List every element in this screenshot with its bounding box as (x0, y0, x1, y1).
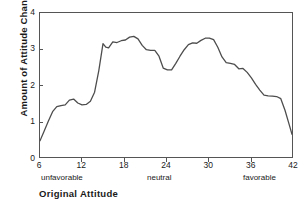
x-anchor-label-neutral: neutral (147, 174, 171, 182)
y-tick-label-1: 1 (19, 117, 35, 126)
y-tick-label-2: 2 (19, 81, 35, 90)
x-tick-label-30: 30 (196, 161, 220, 170)
y-tick-label-3: 3 (19, 44, 35, 53)
x-tick-label-6: 6 (27, 161, 51, 170)
series-line-amount-of-attitude-change (40, 36, 292, 140)
y-axis-title: Amount of Attitude Change (18, 0, 29, 128)
y-tick-mark-2 (39, 85, 43, 86)
x-tick-mark-18 (124, 158, 125, 162)
x-tick-label-24: 24 (154, 161, 178, 170)
x-axis-title: Original Attitude (39, 188, 118, 199)
x-tick-mark-30 (208, 158, 209, 162)
x-tick-label-18: 18 (112, 161, 136, 170)
plot-area (39, 12, 293, 158)
x-tick-mark-24 (166, 158, 167, 162)
x-tick-mark-12 (81, 158, 82, 162)
data-line-svg (40, 13, 292, 157)
y-tick-mark-1 (39, 122, 43, 123)
x-tick-label-42: 42 (281, 161, 305, 170)
y-tick-label-4: 4 (19, 8, 35, 17)
x-tick-label-36: 36 (239, 161, 263, 170)
x-tick-mark-36 (251, 158, 252, 162)
x-anchor-label-favorable: favorable (243, 174, 276, 182)
y-tick-mark-3 (39, 49, 43, 50)
attitude-change-chart: Amount of Attitude Change 01234 61218243… (0, 0, 308, 205)
x-anchor-label-unfavorable: unfavorable (41, 174, 83, 182)
x-tick-label-12: 12 (69, 161, 93, 170)
